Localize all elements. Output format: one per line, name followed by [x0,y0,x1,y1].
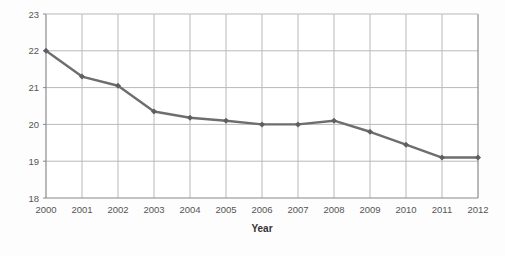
x-tick-label: 2006 [251,204,272,215]
y-tick-label: 19 [28,156,39,167]
x-tick-label: 2008 [323,204,344,215]
chart-svg: 181920212223 200020012002200320042005200… [0,0,505,256]
x-tick-label: 2004 [179,204,200,215]
x-tick-label: 2005 [215,204,236,215]
y-tick-label: 23 [28,9,39,20]
x-tick-label: 2011 [432,204,452,215]
x-tick-label: 2007 [287,204,308,215]
x-tick-label: 2000 [35,204,56,215]
x-tick-label: 2003 [143,204,164,215]
x-axis-title: Year [251,223,272,234]
x-tick-label: 2009 [359,204,380,215]
x-tick-label: 2002 [107,204,128,215]
line-chart: 181920212223 200020012002200320042005200… [0,0,505,256]
x-tick-label: 2010 [395,204,416,215]
x-tick-label: 2001 [71,204,92,215]
y-tick-label: 20 [28,119,39,130]
y-tick-label: 18 [28,193,39,204]
y-tick-label: 21 [28,82,39,93]
chart-page: 181920212223 200020012002200320042005200… [0,0,505,256]
x-tick-label: 2012 [467,204,488,215]
y-tick-label: 22 [28,45,39,56]
